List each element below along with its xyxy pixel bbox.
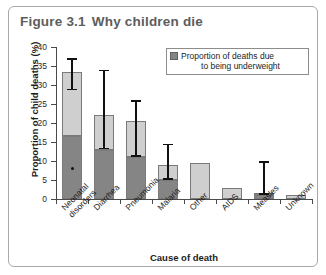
x-axis-title: Cause of death: [56, 252, 312, 263]
x-tick: [216, 199, 217, 204]
y-tick-label: 30: [23, 81, 47, 89]
error-bar-line: [263, 161, 265, 193]
error-bar-cap-upper: [163, 144, 173, 146]
plot-area: Proportion of child deaths (%) Cause of …: [0, 0, 326, 275]
error-bar-line: [71, 58, 73, 88]
x-tick: [184, 199, 185, 204]
y-tick-label: 20: [23, 119, 47, 127]
data-point-marker: [71, 167, 74, 170]
y-tick-label: 25: [23, 100, 47, 108]
error-bar-cap-upper: [99, 70, 109, 72]
y-tick-label: 10: [23, 157, 47, 165]
figure-container: Figure 3.1Why children die Proportion of…: [0, 0, 326, 275]
error-bar-cap-upper: [131, 100, 141, 102]
y-tick-label: 5: [23, 176, 47, 184]
x-tick: [248, 199, 249, 204]
y-tick: [51, 142, 56, 143]
error-bar-cap-lower: [67, 89, 77, 91]
error-bar-line: [135, 100, 137, 155]
y-tick: [51, 66, 56, 67]
x-tick: [280, 199, 281, 204]
error-bar-cap-lower: [99, 148, 109, 150]
y-tick-label: 0: [23, 195, 47, 203]
y-tick-label: 40: [23, 43, 47, 51]
y-tick: [51, 123, 56, 124]
y-tick: [51, 85, 56, 86]
error-bar-line: [167, 144, 169, 178]
x-tick: [56, 199, 57, 204]
legend-label-line2: to being underweight: [170, 61, 305, 71]
x-tick: [152, 199, 153, 204]
legend: Proportion of deaths due to being underw…: [166, 48, 309, 75]
legend-label-line1: Proportion of deaths due: [181, 51, 274, 61]
legend-swatch-underweight: [170, 52, 178, 60]
y-tick: [51, 104, 56, 105]
y-axis-line: [56, 47, 57, 200]
error-bar-cap-lower: [131, 155, 141, 157]
error-bar-cap-upper: [259, 161, 269, 163]
x-tick: [120, 199, 121, 204]
x-tick: [312, 199, 313, 204]
y-tick-label: 35: [23, 62, 47, 70]
y-tick: [51, 47, 56, 48]
error-bar-line: [103, 70, 105, 148]
y-tick-label: 15: [23, 138, 47, 146]
error-bar-cap-upper: [67, 58, 77, 60]
y-tick: [51, 180, 56, 181]
y-tick: [51, 161, 56, 162]
error-bar-cap-lower: [163, 178, 173, 180]
